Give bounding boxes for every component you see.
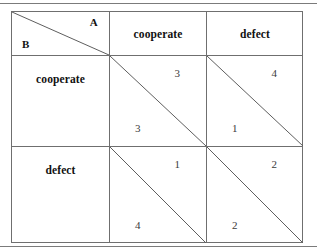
payoff-cell-defect-cooperate: 1 4 [110, 147, 206, 243]
payoff-cell-cooperate-cooperate: 3 3 [110, 56, 206, 146]
column-header-cooperate-label: cooperate [134, 28, 183, 40]
payoff-value-upper-right: 1 [175, 158, 181, 170]
payoff-matrix: A B cooperate defect cooperate defect 3 … [11, 11, 303, 243]
page-frame-top-rule [0, 3, 317, 4]
payoff-cell-defect-defect: 2 2 [207, 147, 303, 243]
payoff-value-upper-right: 3 [175, 67, 181, 79]
payoff-value-upper-right: 2 [272, 158, 278, 170]
matrix-corner-header: A B [12, 12, 109, 55]
payoff-value-lower-left: 4 [135, 219, 141, 231]
column-header-defect: defect [207, 12, 303, 55]
payoff-cell-cooperate-defect: 4 1 [207, 56, 303, 146]
page-frame-bottom-rule [0, 246, 317, 247]
payoff-value-lower-left: 1 [232, 122, 238, 134]
row-player-label: B [22, 38, 30, 50]
cell-diagonal-icon [207, 147, 303, 243]
cell-diagonal-icon [110, 147, 206, 243]
payoff-value-lower-left: 3 [135, 122, 141, 134]
payoff-value-lower-left: 2 [232, 219, 238, 231]
row-header-cooperate-label: cooperate [36, 73, 85, 85]
column-player-label: A [90, 16, 98, 28]
column-header-defect-label: defect [240, 28, 270, 40]
payoff-value-upper-right: 4 [272, 67, 278, 79]
cell-diagonal-icon [110, 56, 206, 146]
column-header-cooperate: cooperate [110, 12, 206, 55]
row-header-defect: defect [12, 147, 109, 243]
row-header-defect-label: defect [46, 164, 76, 176]
row-header-cooperate: cooperate [12, 56, 109, 146]
cell-diagonal-icon [207, 56, 303, 146]
